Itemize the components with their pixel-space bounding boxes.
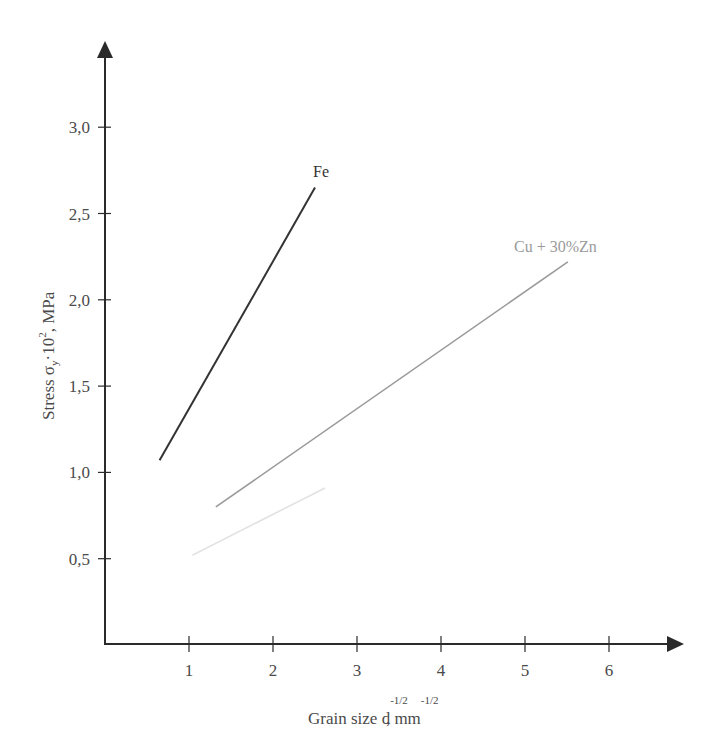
- x-axis-label-sup1: -1/2: [390, 694, 408, 706]
- x-tick-label: 4: [437, 661, 446, 680]
- y-tick-label: 1,0: [69, 463, 90, 482]
- y-tick-label: 3,0: [69, 118, 90, 137]
- axes: [97, 41, 684, 652]
- series-label-fe: Fe: [313, 163, 329, 180]
- y-tick-label: 1,5: [69, 377, 90, 396]
- y-axis-label: Stress σy·102, MPa: [36, 291, 60, 420]
- y-tick-label: 2,5: [69, 205, 90, 224]
- chart: 123456 0,51,01,52,02,53,0 Fe Cu + 30%Zn …: [0, 0, 714, 750]
- series-line-2: [216, 262, 568, 507]
- x-ticks: 123456: [185, 636, 614, 680]
- x-axis-label-mid: , mm: [386, 709, 421, 728]
- x-tick-label: 1: [185, 661, 194, 680]
- x-axis-label-sup2: -1/2: [421, 694, 439, 706]
- y-tick-label: 2,0: [69, 291, 90, 310]
- x-axis-arrow-icon: [667, 636, 684, 652]
- y-axis-label-end: , MPa: [39, 291, 58, 332]
- series-line-3: [192, 488, 325, 555]
- y-axis-arrow-icon: [97, 41, 113, 58]
- x-tick-label: 3: [353, 661, 362, 680]
- series-lines: [160, 188, 568, 556]
- series-line-1: [160, 188, 315, 461]
- x-axis-label: Grain size d-1/2, mm-1/2: [308, 694, 439, 728]
- series-label-cu-zn: Cu + 30%Zn: [514, 238, 597, 255]
- x-tick-label: 2: [269, 661, 278, 680]
- y-axis-label-main: Stress σ: [39, 366, 58, 420]
- x-tick-label: 5: [521, 661, 530, 680]
- x-axis-label-main: Grain size d: [308, 709, 391, 728]
- y-tick-label: 0,5: [69, 550, 90, 569]
- x-tick-label: 6: [605, 661, 614, 680]
- y-axis-label-mid: ·10: [39, 338, 58, 361]
